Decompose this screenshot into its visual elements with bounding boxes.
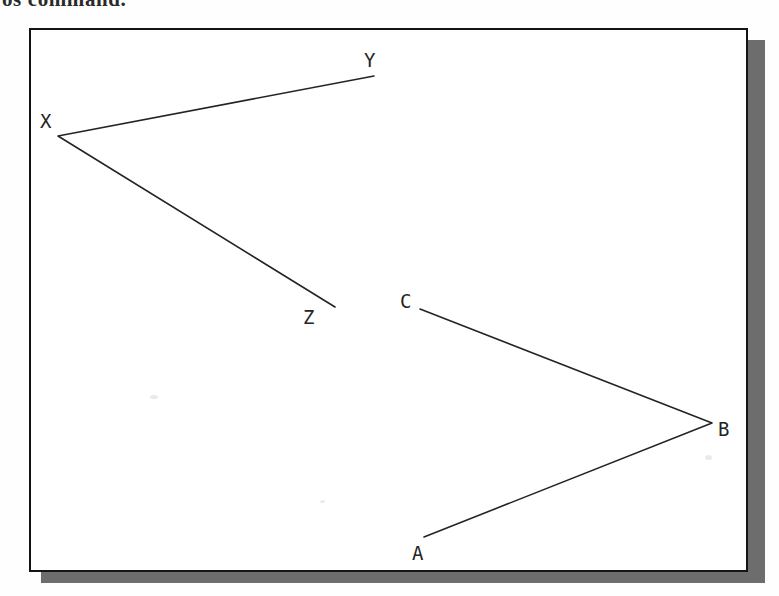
caption-text: os command. <box>2 0 126 11</box>
scan-speckle <box>320 500 325 503</box>
vertex-label-z: Z <box>303 308 314 327</box>
figure-page: os command. YXZCBA <box>0 0 779 596</box>
figure-border-box <box>29 28 748 572</box>
vertex-label-x: X <box>40 112 51 131</box>
scan-speckle <box>150 395 158 399</box>
vertex-label-a: A <box>412 544 423 563</box>
vertex-label-c: C <box>400 292 411 311</box>
scan-speckle <box>705 455 712 460</box>
vertex-label-y: Y <box>364 51 375 70</box>
vertex-label-b: B <box>718 420 729 439</box>
caption-clip: os command. <box>0 0 420 11</box>
